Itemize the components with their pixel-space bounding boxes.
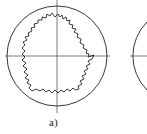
diagram-canvas xyxy=(0,0,147,134)
jagged-profile xyxy=(22,13,94,93)
panel-b-partial xyxy=(130,22,147,90)
panel-a xyxy=(5,0,110,113)
panel-a-label: a) xyxy=(49,116,58,128)
